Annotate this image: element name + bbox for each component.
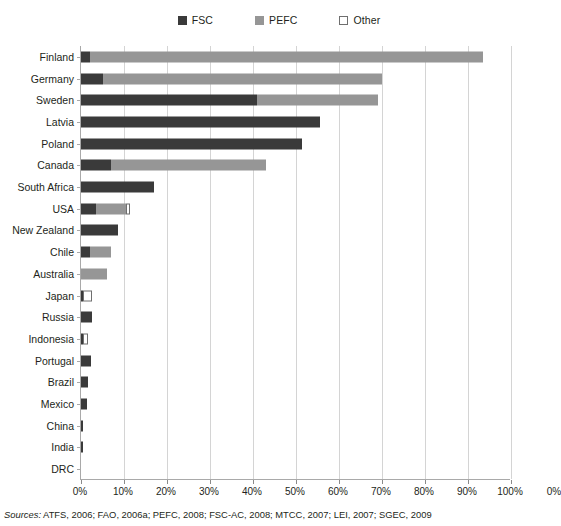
square-outline-white-icon bbox=[339, 16, 348, 25]
y-axis-tick bbox=[77, 469, 81, 470]
x-axis-label-80: 80% bbox=[414, 486, 434, 497]
x-axis-tick-100 bbox=[511, 480, 512, 484]
bar-segment-fsc bbox=[81, 355, 91, 366]
x-axis-tick-10 bbox=[124, 480, 125, 484]
bar-segment-fsc bbox=[81, 203, 96, 214]
bar-segment-other bbox=[83, 333, 89, 344]
chart-row: Poland bbox=[81, 133, 510, 155]
source-note-text: ATFS, 2006; FAO, 2006a; PEFC, 2008; FSC-… bbox=[41, 509, 432, 520]
bar-finland[interactable] bbox=[81, 51, 483, 62]
bar-indonesia[interactable] bbox=[81, 333, 88, 344]
x-axis-tick-30 bbox=[210, 480, 211, 484]
bar-segment-other bbox=[126, 203, 130, 214]
legend-item-other[interactable]: Other bbox=[339, 14, 380, 26]
legend-item-fsc[interactable]: FSC bbox=[178, 14, 213, 26]
y-axis-label-new-zealand: New Zealand bbox=[12, 224, 74, 236]
chart-row: Finland bbox=[81, 46, 510, 68]
y-axis-label-portugal: Portugal bbox=[35, 355, 74, 367]
square-filled-gray-icon bbox=[255, 16, 264, 25]
legend-item-label: FSC bbox=[192, 14, 213, 26]
bar-segment-fsc bbox=[81, 377, 88, 388]
x-axis-tick-0 bbox=[81, 480, 82, 484]
bar-latvia[interactable] bbox=[81, 116, 320, 127]
y-axis-label-india: India bbox=[51, 441, 74, 453]
bar-usa[interactable] bbox=[81, 203, 130, 214]
chart-row: Canada bbox=[81, 155, 510, 177]
chart-row: Japan bbox=[81, 285, 510, 307]
bar-new-zealand[interactable] bbox=[81, 225, 118, 236]
bar-segment-other bbox=[83, 290, 92, 301]
bar-china[interactable] bbox=[81, 420, 83, 431]
chart-row: Portugal bbox=[81, 350, 510, 372]
y-axis-label-brazil: Brazil bbox=[48, 376, 74, 388]
legend-item-label: Other bbox=[353, 14, 380, 26]
bar-mexico[interactable] bbox=[81, 399, 87, 410]
x-axis-tick-80 bbox=[425, 480, 426, 484]
bar-portugal[interactable] bbox=[81, 355, 91, 366]
y-axis-label-germany: Germany bbox=[31, 73, 74, 85]
x-axis-label-60: 60% bbox=[328, 486, 348, 497]
bar-segment-pefc bbox=[90, 51, 483, 62]
chart-legend: FSCPEFCOther bbox=[0, 14, 558, 26]
bar-segment-fsc bbox=[81, 160, 111, 171]
source-note: Sources: ATFS, 2006; FAO, 2006a; PEFC, 2… bbox=[4, 509, 432, 520]
bar-australia[interactable] bbox=[81, 268, 107, 279]
bar-segment-pefc bbox=[111, 160, 266, 171]
chart-row: Brazil bbox=[81, 372, 510, 394]
bar-segment-pefc bbox=[96, 203, 126, 214]
chart-row: Sweden bbox=[81, 89, 510, 111]
x-axis-tick-60 bbox=[339, 480, 340, 484]
bar-canada[interactable] bbox=[81, 160, 266, 171]
source-note-lead: Sources: bbox=[4, 509, 41, 520]
bar-russia[interactable] bbox=[81, 312, 92, 323]
x-axis-label-100: 100% bbox=[497, 486, 523, 497]
y-axis-label-sweden: Sweden bbox=[36, 94, 74, 106]
bar-segment-fsc bbox=[81, 247, 90, 258]
bar-segment-pefc bbox=[90, 247, 112, 258]
x-axis-tick-20 bbox=[167, 480, 168, 484]
bar-brazil[interactable] bbox=[81, 377, 88, 388]
x-axis-label-20: 20% bbox=[156, 486, 176, 497]
chart-row: China bbox=[81, 415, 510, 437]
legend-item-label: PEFC bbox=[269, 14, 297, 26]
x-axis-tick-50 bbox=[296, 480, 297, 484]
bar-india[interactable] bbox=[81, 442, 83, 453]
x-axis-label-50: 50% bbox=[285, 486, 305, 497]
bar-segment-fsc bbox=[81, 73, 103, 84]
legend-item-pefc[interactable]: PEFC bbox=[255, 14, 297, 26]
bar-segment-pefc bbox=[81, 268, 107, 279]
bar-chile[interactable] bbox=[81, 247, 111, 258]
x-axis-tick-70 bbox=[382, 480, 383, 484]
bar-segment-fsc bbox=[81, 399, 87, 410]
bar-segment-fsc bbox=[81, 95, 257, 106]
chart-row: Chile bbox=[81, 241, 510, 263]
y-axis-label-indonesia: Indonesia bbox=[28, 333, 74, 345]
bar-segment-fsc bbox=[81, 225, 118, 236]
y-axis-label-china: China bbox=[47, 420, 74, 432]
chart-row: Australia bbox=[81, 263, 510, 285]
y-axis-label-chile: Chile bbox=[50, 246, 74, 258]
y-axis-label-drc: DRC bbox=[51, 463, 74, 475]
bar-segment-pefc bbox=[257, 95, 377, 106]
chart-row: Latvia bbox=[81, 111, 510, 133]
y-axis-label-poland: Poland bbox=[41, 138, 74, 150]
x-axis-tick-labels: 0%10%20%30%40%50%60%70%80%90%100%0% bbox=[0, 486, 558, 500]
chart-row: India bbox=[81, 437, 510, 459]
bar-segment-fsc bbox=[81, 420, 83, 431]
bar-germany[interactable] bbox=[81, 73, 382, 84]
bar-segment-fsc bbox=[81, 182, 154, 193]
bar-segment-fsc bbox=[81, 312, 92, 323]
bar-poland[interactable] bbox=[81, 138, 302, 149]
bar-south-africa[interactable] bbox=[81, 182, 154, 193]
bar-sweden[interactable] bbox=[81, 95, 378, 106]
y-axis-label-finland: Finland bbox=[40, 51, 74, 63]
bar-japan[interactable] bbox=[81, 290, 92, 301]
x-axis-label-90: 90% bbox=[457, 486, 477, 497]
chart-row: DRC bbox=[81, 458, 510, 480]
bar-segment-fsc bbox=[81, 442, 83, 453]
bar-segment-pefc bbox=[103, 73, 383, 84]
y-axis-label-japan: Japan bbox=[45, 290, 74, 302]
chart-row: South Africa bbox=[81, 176, 510, 198]
x-axis-label-70: 70% bbox=[371, 486, 391, 497]
y-axis-label-south-africa: South Africa bbox=[17, 181, 74, 193]
